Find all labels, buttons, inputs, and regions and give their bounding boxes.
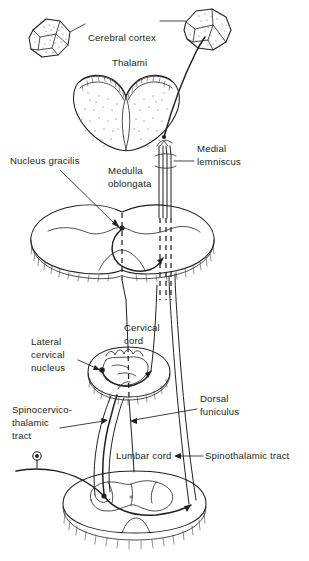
label-spinocervicothalamic-line2: thalamic [12, 417, 49, 428]
label-lateral-cervical-nucleus-line3: nucleus [31, 362, 65, 373]
label-dorsal-funiculus-line1: Dorsal [200, 393, 229, 404]
label-medial-lemniscus-line1: Medial [197, 143, 226, 154]
anatomy-figure: Cerebral cortex Thalami Nucleus gracilis… [0, 0, 309, 561]
spinothalamic-ascending [169, 276, 189, 504]
label-spinothalamic-tract: Spinothalamic tract [205, 450, 290, 461]
thalami-section-icon [74, 75, 180, 150]
label-cerebral-cortex: Cerebral cortex [88, 32, 156, 43]
label-dorsal-funiculus-line2: funiculus [200, 406, 239, 417]
spinothalamic-ascending-outer [175, 274, 196, 500]
leader-dorsal-funiculus [134, 409, 197, 420]
cortex-block-right-icon [184, 9, 231, 50]
arrowhead-spinocervico [101, 418, 108, 424]
leader-spinocervicothalamic [60, 421, 104, 428]
pathway-diagram-svg: Cerebral cortex Thalami Nucleus gracilis… [0, 0, 309, 561]
arrowhead-spinothalamic-label [174, 453, 181, 459]
receptor-center-dot [35, 454, 39, 458]
label-cervical-cord-line2: cord [124, 335, 143, 346]
label-medial-lemniscus-line2: lemniscus [197, 156, 241, 167]
label-lateral-cervical-nucleus-line1: Lateral [31, 336, 61, 347]
cortex-block-left-icon [29, 19, 70, 57]
label-medulla-line1: Medulla [108, 165, 143, 176]
leader-lines [60, 154, 203, 459]
label-lumbar-cord: Lumbar cord [116, 450, 172, 461]
label-spinocervicothalamic-line3: tract [12, 430, 32, 441]
label-medulla-line2: oblongata [108, 178, 152, 189]
label-lateral-cervical-nucleus-line2: cervical [31, 349, 65, 360]
lumbar-section-icon [63, 471, 206, 549]
label-thalami: Thalami [112, 57, 147, 68]
label-spinocervicothalamic-line1: Spinocervico- [12, 404, 72, 415]
label-cervical-cord-line1: Cervical [124, 322, 160, 333]
leader-cortex-left [70, 24, 85, 32]
label-nucleus-gracilis: Nucleus gracilis [10, 155, 80, 166]
